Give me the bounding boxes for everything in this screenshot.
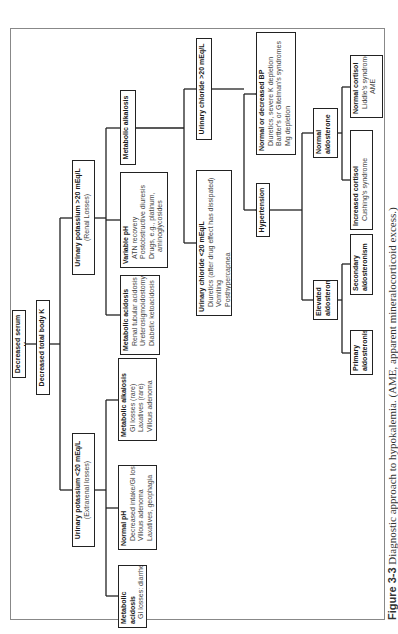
node-title: Urinary chloride <20 mEq/L xyxy=(198,174,207,312)
node-line: Villous adenoma xyxy=(137,469,146,546)
node-line: Ureterosigmoidostomy xyxy=(139,279,148,351)
node-title: aldosterone xyxy=(324,112,333,154)
node-line: Liddle's syndrome xyxy=(361,59,370,114)
node-subtitle: (Extrarenal losses) xyxy=(83,437,92,543)
node-title: Metabolic acidosis xyxy=(120,569,137,624)
caption-text: Diagnostic approach to hypokalemia. (AME… xyxy=(386,207,398,564)
node-decreased-total-body-k: Decreased total body K xyxy=(36,300,50,395)
node-title: Secondary xyxy=(352,238,361,291)
node-title: aldosterone xyxy=(324,284,333,316)
node-title: Metabolic alkalosis xyxy=(120,362,129,437)
node-title: aldosteronism xyxy=(361,334,370,371)
node-urinary-chloride-low: Urinary chloride <20 mEq/L Diuretics (af… xyxy=(196,170,232,316)
node-title: Urinary chloride >20 mEq/L xyxy=(198,42,207,136)
node-extrarenal-metabolic-acidosis: Metabolic acidosis GI losses: diarrhea, … xyxy=(118,565,147,628)
node-line: GI losses: diarrhea, xyxy=(137,569,146,624)
node-title: Decreased serum K xyxy=(14,314,26,374)
node-title: Normal cortisol xyxy=(352,59,361,114)
node-line: laxatives xyxy=(146,569,147,624)
node-line: Mg depletion xyxy=(284,36,293,151)
node-title: Primary xyxy=(352,334,361,371)
node-extrarenal-metabolic-alkalosis: Metabolic alkalosis GI losses (rare) Lax… xyxy=(118,358,157,441)
node-title: Increased cortisol xyxy=(352,134,361,226)
node-title: Elevated xyxy=(315,284,324,316)
figure-caption: Figure 3-3 Diagnostic approach to hypoka… xyxy=(386,207,398,620)
node-line: aminoglycosides xyxy=(156,176,165,264)
node-title: Normal pH xyxy=(120,469,129,546)
node-renal-metabolic-acidosis: Metabolic acidosis Renal tubular acidosi… xyxy=(120,275,160,355)
node-title: Urinary potassium >20 mEq/L xyxy=(74,164,83,271)
node-title: Decreased total body K xyxy=(38,304,47,391)
node-urinary-k-low: Urinary potassium <20 mEq/L (Extrarenal … xyxy=(72,433,95,547)
node-line: AME xyxy=(369,59,378,114)
node-line: GI losses (rare) xyxy=(129,362,138,437)
node-line: Diuretics (after drug effect has dissipa… xyxy=(207,174,216,312)
node-normal-ph: Normal pH Decreased intake/GI losses Vil… xyxy=(118,465,157,550)
node-title: Normal or decreased BP xyxy=(258,36,267,151)
node-title: Metabolic acidosis xyxy=(122,279,131,351)
node-line: Villous adenoma xyxy=(146,362,155,437)
node-line: Laxatives (rare) xyxy=(137,362,146,437)
node-line: Drugs, e.g., platinum, xyxy=(148,176,157,264)
node-title: Variable pH xyxy=(122,176,131,264)
node-line: Posthypercapnea xyxy=(224,174,232,312)
node-urinary-k-high: Urinary potassium >20 mEq/L (Renal Losse… xyxy=(72,160,95,275)
node-line: Postobstructive diuresis xyxy=(139,176,148,264)
node-normal-cortisol: Normal cortisol Liddle's syndrome AME xyxy=(350,55,383,118)
node-decreased-serum-k: Decreased serum K xyxy=(12,310,26,378)
node-title: Urinary potassium <20 mEq/L xyxy=(74,437,83,543)
node-normal-or-decreased-bp: Normal or decreased BP Diuretics, severe… xyxy=(256,32,296,155)
node-hypertension: Hypertension xyxy=(256,183,270,237)
node-line: Laxatives, geophagia xyxy=(146,469,155,546)
caption-label: Figure 3-3 xyxy=(386,567,398,620)
node-elevated-aldosterone: Elevated aldosterone xyxy=(313,280,338,320)
node-title: Hypertension xyxy=(258,187,267,233)
node-line: Vomiting xyxy=(215,174,224,312)
node-primary-aldosteronism: Primary aldosteronism xyxy=(350,330,373,375)
node-line: ATN recovery xyxy=(131,176,140,264)
node-variable-ph: Variable pH ATN recovery Postobstructive… xyxy=(120,172,168,268)
node-secondary-aldosteronism: Secondary aldosteronism xyxy=(350,234,373,295)
node-line: Bartter's or Gitelman's syndromes xyxy=(275,36,284,151)
node-line: Renal tubular acidosis xyxy=(131,279,140,351)
node-title: Normal xyxy=(315,112,324,154)
node-urinary-chloride-high: Urinary chloride >20 mEq/L xyxy=(196,38,212,140)
node-line: Diuretics, severe K depletion xyxy=(267,36,276,151)
node-title: aldosteronism xyxy=(361,238,370,291)
node-line: Diabetic ketoacidosis xyxy=(148,279,157,351)
node-renal-metabolic-alkalosis: Metabolic alkalosis xyxy=(120,90,136,165)
node-title: Metabolic alkalosis xyxy=(122,94,131,161)
node-normal-aldosterone: Normal aldosterone xyxy=(313,108,338,158)
node-line: Decreased intake/GI losses xyxy=(129,469,138,546)
node-increased-cortisol: Increased cortisol Cushing's syndrome xyxy=(350,130,373,230)
node-subtitle: (Renal Losses) xyxy=(83,164,92,271)
node-line: Cushing's syndrome xyxy=(361,134,370,226)
